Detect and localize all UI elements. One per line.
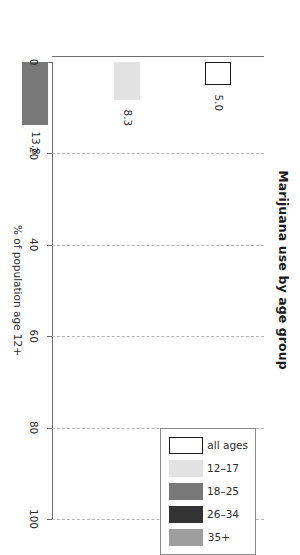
value-axis-title: % of population age 12+ bbox=[12, 62, 24, 519]
legend-swatch bbox=[169, 506, 203, 523]
category-axis-baseline bbox=[52, 62, 53, 519]
legend-item: 18–25 bbox=[169, 483, 239, 500]
legend-item: all ages bbox=[169, 437, 248, 454]
gridline bbox=[52, 336, 264, 337]
chart-legend: all ages12–1718–2526–3435+ bbox=[160, 428, 256, 555]
gridline bbox=[52, 153, 264, 154]
bar-value-label: 13.8 bbox=[31, 131, 43, 154]
bar bbox=[205, 62, 231, 85]
legend-swatch bbox=[169, 460, 203, 477]
bar bbox=[114, 62, 140, 100]
axis-tick-label: 100 bbox=[28, 509, 40, 529]
legend-item-label: 35+ bbox=[207, 532, 229, 543]
legend-item: 12–17 bbox=[169, 460, 239, 477]
legend-item-label: 18–25 bbox=[207, 486, 239, 497]
legend-item-label: 12–17 bbox=[207, 463, 239, 474]
bar-value-label: 5.0 bbox=[213, 94, 225, 111]
legend-item: 35+ bbox=[169, 529, 229, 546]
axis-tick-label: 80 bbox=[28, 421, 40, 434]
bar-value-label: 8.3 bbox=[122, 110, 134, 127]
bar bbox=[23, 62, 49, 125]
chart-title: Marijuana use by age group bbox=[276, 0, 300, 540]
legend-item-label: all ages bbox=[207, 440, 248, 451]
legend-item-label: 26–34 bbox=[207, 509, 239, 520]
gridline bbox=[52, 245, 264, 246]
legend-item: 26–34 bbox=[169, 506, 239, 523]
legend-swatch bbox=[169, 437, 203, 454]
axis-tick-label: 40 bbox=[28, 238, 40, 251]
legend-swatch bbox=[169, 529, 203, 546]
legend-swatch bbox=[169, 483, 203, 500]
value-axis-spine bbox=[52, 56, 264, 57]
axis-tick-label: 60 bbox=[28, 330, 40, 343]
